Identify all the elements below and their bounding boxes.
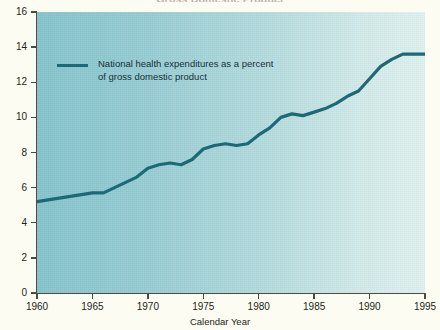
x-axis-line <box>36 293 426 294</box>
x-axis-label: 1985 <box>289 302 339 312</box>
x-axis-tick <box>313 293 314 299</box>
y-axis-tick <box>31 82 37 83</box>
x-axis-label: 1980 <box>234 302 284 312</box>
y-axis-tick <box>31 187 37 188</box>
legend-label: National health expenditures as a percen… <box>98 58 273 83</box>
y-axis-label: 2 <box>3 253 27 263</box>
chart-title-clipped: Gross Domestic Product <box>0 0 440 2</box>
y-axis-tick <box>31 257 37 258</box>
y-axis-label: 14 <box>3 42 27 52</box>
y-axis-label: 10 <box>3 112 27 122</box>
y-axis-label: 0 <box>3 288 27 298</box>
legend-color-swatch <box>57 64 88 67</box>
chart-legend: National health expenditures as a percen… <box>57 58 273 83</box>
x-axis-tick <box>424 293 425 299</box>
x-axis-label: 1975 <box>178 302 228 312</box>
y-axis-tick <box>31 11 37 12</box>
y-axis-label: 6 <box>3 183 27 193</box>
x-axis-label: 1965 <box>67 302 117 312</box>
y-axis-tick <box>31 117 37 118</box>
x-axis-tick <box>203 293 204 299</box>
chart-figure: Gross Domestic Product 0246810121416 196… <box>0 0 440 330</box>
plot-area <box>37 12 425 293</box>
x-axis-tick <box>92 293 93 299</box>
x-axis-label: 1990 <box>345 302 395 312</box>
x-axis-tick <box>147 293 148 299</box>
y-axis-tick <box>31 46 37 47</box>
y-axis-tick <box>31 152 37 153</box>
x-axis-label: 1970 <box>123 302 173 312</box>
y-axis-label: 4 <box>3 218 27 228</box>
x-axis-label: 1960 <box>12 302 62 312</box>
y-axis-label: 16 <box>3 7 27 17</box>
data-series-line <box>37 12 425 293</box>
x-axis-label: 1995 <box>400 302 440 312</box>
x-axis-tick <box>36 293 37 299</box>
x-axis-title: Calendar Year <box>0 316 440 327</box>
x-axis-tick <box>369 293 370 299</box>
y-axis-tick <box>31 222 37 223</box>
x-axis-tick <box>258 293 259 299</box>
y-axis-label: 8 <box>3 148 27 158</box>
y-axis-label: 12 <box>3 77 27 87</box>
